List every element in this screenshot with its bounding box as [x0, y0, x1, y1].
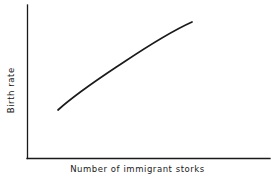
data-curve — [58, 22, 192, 110]
x-axis-label: Number of immigrant storks — [0, 165, 275, 174]
y-axis-label: Birth rate — [7, 60, 16, 120]
chart-plot-area — [0, 0, 275, 184]
chart-figure: Number of immigrant storks Birth rate — [0, 0, 275, 184]
